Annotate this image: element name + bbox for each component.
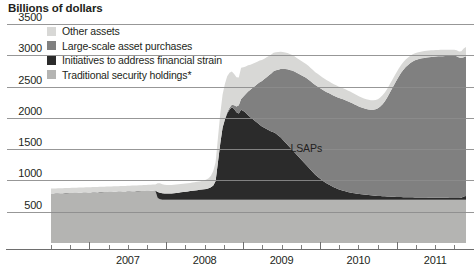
legend-item-label: Other assets [62,26,120,37]
x-axis-tick-label: 2011 [405,254,465,266]
legend-swatch-icon [47,70,56,79]
legend-item: Large-scale asset purchases [47,39,222,54]
legend-item: Traditional security holdings* [47,68,222,83]
chart-legend: Other assetsLarge-scale asset purchasesI… [47,24,222,82]
chart-container: Billions of dollars Other assetsLarge-sc… [0,0,476,272]
y-axis-tick-label: 2000 [0,105,42,117]
x-axis-tick-label: 2010 [328,254,388,266]
x-axis-tick-label: 2008 [175,254,235,266]
y-axis-tick-label: 3500 [0,11,42,23]
x-axis-tick-label: 2009 [252,254,312,266]
legend-swatch-icon [47,56,56,65]
x-axis-tick-label: 2007 [98,254,158,266]
y-axis-tick-label: 500 [0,199,42,211]
y-axis-tick-label: 1500 [0,136,42,148]
legend-item-label: Large-scale asset purchases [62,41,192,52]
legend-item-label: Traditional security holdings* [62,70,191,81]
legend-item: Initiatives to address financial strain [47,53,222,68]
chart-annotation-lsaps: LSAPs [290,142,322,154]
y-axis-tick-label: 3000 [0,42,42,54]
legend-swatch-icon [47,41,56,50]
legend-item: Other assets [47,24,222,39]
legend-swatch-icon [47,27,56,36]
y-axis-tick-label: 1000 [0,167,42,179]
legend-item-label: Initiatives to address financial strain [62,55,222,66]
y-axis-tick-label: 2500 [0,74,42,86]
